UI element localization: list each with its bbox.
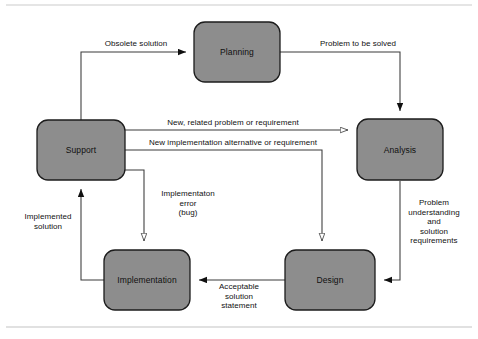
node-label-support: Support bbox=[66, 145, 96, 155]
edge-label-new-implementation-alternative-or-requirement: New implementation alternative or requir… bbox=[149, 138, 317, 148]
edge-label-acceptable-solution-statement: Acceptable solution statement bbox=[219, 282, 259, 311]
edge-label-problem-to-be-solved: Problem to be solved bbox=[320, 39, 396, 49]
edge-new-implementation-alternative bbox=[125, 150, 322, 241]
edge-problem-understanding bbox=[384, 181, 400, 280]
edge-label-obsolete-solution: Obsolete solution bbox=[105, 39, 168, 49]
node-label-design: Design bbox=[316, 275, 343, 285]
edge-label-implemented-solution: Implemented solution bbox=[25, 212, 72, 231]
edge-label-problem-understanding-and-solution-requirements: Problem understanding and solution requi… bbox=[408, 198, 459, 246]
node-label-planning: Planning bbox=[220, 47, 254, 57]
edge-problem-to-be-solved bbox=[280, 52, 400, 111]
edge-label-new-related-problem-or-requirement: New, related problem or requirement bbox=[167, 118, 299, 128]
process-cycle-diagram: Planning Support Analysis Implementation… bbox=[0, 0, 478, 339]
nodes bbox=[37, 22, 443, 310]
edge-obsolete-solution bbox=[81, 52, 186, 120]
node-label-analysis: Analysis bbox=[384, 145, 416, 155]
connectors bbox=[81, 52, 400, 280]
node-label-implementation: Implementation bbox=[117, 275, 177, 285]
edge-implemented-solution bbox=[81, 189, 105, 280]
edge-label-implementaton-error-bug: Implementaton error (bug) bbox=[161, 189, 215, 218]
edge-implementaton-error-bug bbox=[125, 170, 144, 241]
